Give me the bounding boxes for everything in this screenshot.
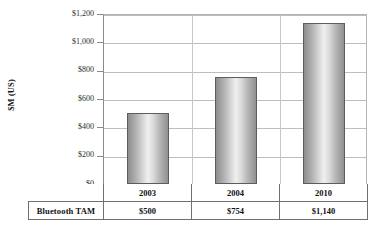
gridline [104,15,366,16]
y-axis-tick-label-3: $600 [38,94,94,103]
table-cell-value-1: $754 [192,202,280,220]
y-axis-tick-label-4: $400 [38,122,94,131]
data-table: 2003 2004 2010 Bluetooth TAM $500 $754 $… [28,184,368,220]
table-corner-blank [29,184,104,202]
table-cell-value-2: $1,140 [280,202,368,220]
table-row-years: 2003 2004 2010 [29,184,368,202]
category-label-0: 2003 [104,184,192,202]
y-axis-tick-label-5: $200 [38,150,94,159]
y-axis-tick-label-1: $1,000 [38,37,94,46]
category-label-1: 2004 [192,184,280,202]
category-separator-1 [192,15,193,184]
table-cell-value-0: $500 [104,202,192,220]
bar-2004 [215,77,257,184]
table-row: Bluetooth TAM $500 $754 $1,140 [29,202,368,220]
y-axis-title: $M (US) [6,65,16,125]
bar-chart-figure: $M (US) $1,200$1,000$800$600$400$200$0 2… [0,0,380,234]
bar-2003 [127,113,169,184]
plot-area [103,14,367,184]
category-label-2: 2010 [280,184,368,202]
category-separator-2 [280,15,281,184]
y-axis-tick-label-0: $1,200 [38,9,94,18]
table-row-header: Bluetooth TAM [29,202,104,220]
bar-2010 [303,23,345,185]
y-axis-tick-label-2: $800 [38,65,94,74]
